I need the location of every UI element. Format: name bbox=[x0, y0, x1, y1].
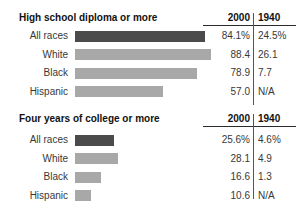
section-college: Four years of college or more 2000 1940 … bbox=[0, 110, 298, 215]
value-bar bbox=[75, 135, 114, 146]
header-underline bbox=[203, 126, 296, 127]
value-2000: 57.0 bbox=[190, 83, 250, 102]
value-1940: N/A bbox=[258, 187, 296, 206]
bar-row: White88.426.1 bbox=[0, 46, 298, 65]
value-bar bbox=[75, 172, 101, 183]
dual-bar-chart: High school diploma or more 2000 1940 Al… bbox=[0, 0, 298, 221]
value-2000: 78.9 bbox=[190, 64, 250, 83]
category-label: White bbox=[0, 46, 68, 65]
value-1940: 1.3 bbox=[258, 168, 296, 187]
bar-row: Hispanic10.6N/A bbox=[0, 187, 298, 206]
value-2000: 84.1% bbox=[190, 27, 250, 46]
value-bar bbox=[75, 68, 197, 79]
bar-row: Black78.97.7 bbox=[0, 64, 298, 83]
value-2000: 88.4 bbox=[190, 46, 250, 65]
value-2000: 28.1 bbox=[190, 150, 250, 169]
value-1940: 24.5% bbox=[258, 27, 296, 46]
category-label: All races bbox=[0, 131, 68, 150]
bar-row: White28.14.9 bbox=[0, 150, 298, 169]
column-header-1940: 1940 bbox=[258, 12, 296, 24]
bar-row: Black16.61.3 bbox=[0, 168, 298, 187]
column-header-2000: 2000 bbox=[190, 12, 250, 24]
category-label: Hispanic bbox=[0, 83, 68, 102]
value-bar bbox=[75, 31, 205, 42]
bar-row: All races84.1%24.5% bbox=[0, 27, 298, 46]
category-label: Black bbox=[0, 64, 68, 83]
section-high-school: High school diploma or more 2000 1940 Al… bbox=[0, 12, 298, 112]
bar-row: All races25.6%4.6% bbox=[0, 131, 298, 150]
category-label: Hispanic bbox=[0, 187, 68, 206]
value-1940: N/A bbox=[258, 83, 296, 102]
value-1940: 7.7 bbox=[258, 64, 296, 83]
column-header-2000: 2000 bbox=[190, 113, 250, 125]
value-2000: 25.6% bbox=[190, 131, 250, 150]
bar-row: Hispanic57.0N/A bbox=[0, 83, 298, 102]
category-label: Black bbox=[0, 168, 68, 187]
value-1940: 4.6% bbox=[258, 131, 296, 150]
value-1940: 4.9 bbox=[258, 150, 296, 169]
value-2000: 16.6 bbox=[190, 168, 250, 187]
section-title: Four years of college or more bbox=[19, 113, 160, 125]
value-2000: 10.6 bbox=[190, 187, 250, 206]
category-label: All races bbox=[0, 27, 68, 46]
value-bar bbox=[75, 190, 91, 201]
value-bar bbox=[75, 86, 163, 97]
category-label: White bbox=[0, 150, 68, 169]
value-1940: 26.1 bbox=[258, 46, 296, 65]
value-bar bbox=[75, 153, 118, 164]
header-underline bbox=[203, 25, 296, 26]
column-header-1940: 1940 bbox=[258, 113, 296, 125]
section-title: High school diploma or more bbox=[19, 12, 157, 24]
